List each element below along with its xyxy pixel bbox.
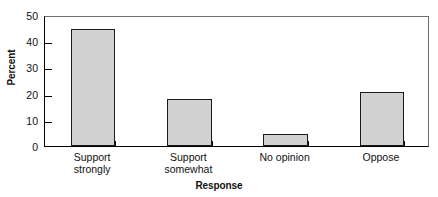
bar: [167, 99, 211, 146]
x-axis-tick-mark: [308, 141, 309, 146]
y-axis-tick-label: 20: [16, 90, 38, 100]
y-axis-tick-mark: [45, 69, 52, 70]
x-axis-tick-label-line: Oppose: [333, 152, 429, 164]
y-axis-tick-label: 0: [16, 142, 38, 152]
x-axis-tick-label: No opinion: [237, 152, 333, 164]
bar: [71, 29, 115, 146]
x-axis-tick-mark: [115, 141, 116, 146]
x-axis-tick-label-line: somewhat: [140, 164, 236, 176]
x-axis-tick-label-line: No opinion: [237, 152, 333, 164]
y-axis-tick-label: 30: [16, 63, 38, 73]
plot-area: [44, 16, 429, 147]
y-axis-tick-mark: [45, 43, 52, 44]
bar-chart-figure: Percent 01020304050 SupportstronglySuppo…: [0, 0, 438, 197]
y-axis-tick-label: 10: [16, 116, 38, 126]
y-axis-tick-label: 50: [16, 11, 38, 21]
x-axis-tick-mark: [212, 141, 213, 146]
x-axis-tick-label-line: strongly: [44, 164, 140, 176]
x-axis-tick-label-line: Support: [140, 152, 236, 164]
x-axis-tick-label-line: Support: [44, 152, 140, 164]
y-axis-title: Percent: [6, 33, 17, 103]
x-axis-title: Response: [0, 180, 438, 191]
x-axis-tick-label: Oppose: [333, 152, 429, 164]
x-axis-tick-mark: [404, 141, 405, 146]
plot-inner: [45, 17, 428, 146]
y-axis-tick-mark: [45, 122, 52, 123]
y-axis-tick-label: 40: [16, 37, 38, 47]
y-axis-tick-mark: [45, 96, 52, 97]
bar: [360, 92, 404, 146]
x-axis-tick-label: Supportstrongly: [44, 152, 140, 175]
bar: [263, 134, 307, 146]
x-axis-tick-label: Supportsomewhat: [140, 152, 236, 175]
